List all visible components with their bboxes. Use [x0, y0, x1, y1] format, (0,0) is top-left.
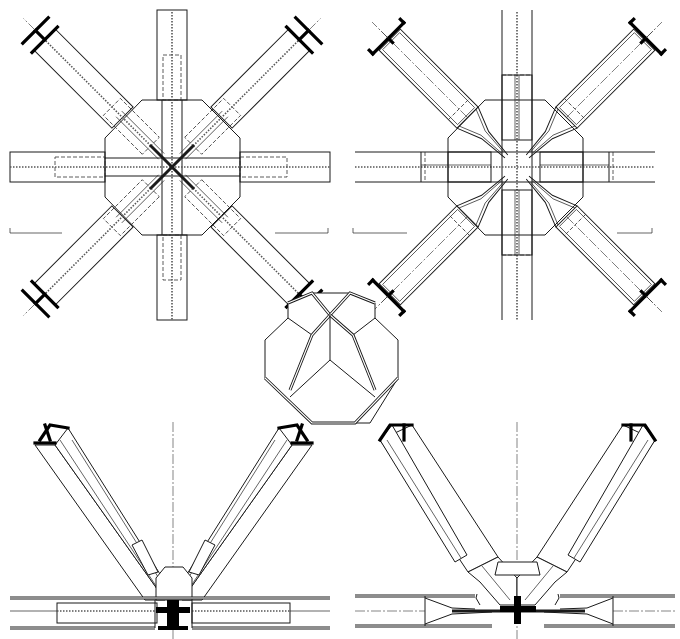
- plan-view-welded: [353, 6, 678, 327]
- elevation-welded: [355, 422, 675, 639]
- node-axonometric-view: [265, 293, 398, 423]
- technical-drawing-sheet: [0, 0, 680, 639]
- elevation-bolted: [10, 422, 330, 639]
- plan-view-bolted: [10, 6, 333, 328]
